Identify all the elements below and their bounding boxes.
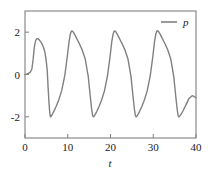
x-tick-label-40: 40	[191, 141, 203, 153]
legend-label-p: p	[182, 16, 189, 28]
y-tick-label-2: 2	[15, 26, 21, 38]
figure-container: 010203040 -202 t p	[0, 0, 208, 173]
y-tick-label--2: -2	[11, 111, 20, 123]
line-chart: 010203040 -202 t p	[0, 0, 208, 173]
x-tick-label-10: 10	[62, 141, 74, 153]
x-tick-label-0: 0	[22, 141, 28, 153]
x-tick-label-20: 20	[105, 141, 117, 153]
y-tick-label-0: 0	[15, 69, 21, 81]
x-tick-label-30: 30	[148, 141, 160, 153]
figure-background	[0, 0, 208, 173]
